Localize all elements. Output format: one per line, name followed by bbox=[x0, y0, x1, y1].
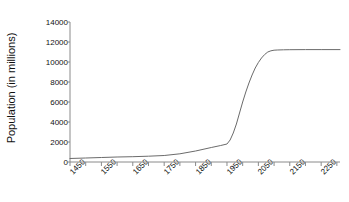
plot-area bbox=[0, 0, 349, 202]
population-growth-chart: Population (in millions) 020004000600080… bbox=[0, 0, 349, 202]
series-line bbox=[70, 50, 340, 159]
axes-group bbox=[67, 22, 340, 166]
data-series-group bbox=[70, 50, 340, 159]
